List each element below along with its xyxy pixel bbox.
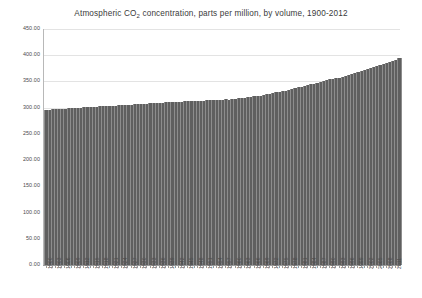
x-axis-tick (80, 266, 81, 268)
x-axis-tick (307, 266, 308, 268)
x-axis-tick (317, 266, 318, 268)
chart-title-rest: concentration, parts per million, by vol… (140, 9, 348, 18)
y-axis-tick-label: 100.00 (0, 210, 40, 215)
x-axis-tick (342, 266, 343, 268)
x-axis-tick (181, 266, 182, 268)
x-axis-tick (156, 266, 157, 268)
x-axis-tick (90, 266, 91, 268)
x-axis-tick (203, 266, 204, 268)
x-axis-tick (269, 266, 270, 268)
x-axis-tick (194, 266, 195, 268)
x-axis-tick (250, 266, 251, 268)
x-axis-tick (279, 266, 280, 268)
chart-title-subscript: 2 (137, 13, 141, 19)
x-axis-tick (304, 266, 305, 268)
x-axis-tick (294, 266, 295, 268)
x-axis-tick (332, 266, 333, 268)
y-axis-tick-label: 250.00 (0, 131, 40, 136)
x-axis-tick (389, 266, 390, 268)
x-axis-tick (143, 266, 144, 268)
chart-title: Atmospheric CO2 concentration, parts per… (0, 9, 422, 18)
x-axis-tick (351, 266, 352, 268)
x-axis-tick (209, 266, 210, 268)
x-axis-tick (323, 266, 324, 268)
x-axis-tick (99, 266, 100, 268)
x-axis-tick (87, 266, 88, 268)
x-axis-tick (190, 266, 191, 268)
y-axis-tick-label: 400.00 (0, 52, 40, 57)
x-axis-tick (49, 266, 50, 268)
x-axis-tick (219, 266, 220, 268)
x-axis-tick (124, 266, 125, 268)
y-axis-tick-label: 0.00 (0, 262, 40, 267)
x-axis-tick (200, 266, 201, 268)
x-axis-tick (392, 266, 393, 268)
x-axis-tick (326, 266, 327, 268)
x-axis-tick (118, 266, 119, 268)
x-axis-tick (52, 266, 53, 268)
x-axis-tick (71, 266, 72, 268)
x-axis-tick (109, 266, 110, 268)
y-axis-tick-label: 50.00 (0, 236, 40, 241)
x-axis-tick (298, 266, 299, 268)
x-axis-tick (105, 266, 106, 268)
x-axis-tick (228, 266, 229, 268)
x-axis-tick (165, 266, 166, 268)
x-axis-tick (184, 266, 185, 268)
x-axis-tick (238, 266, 239, 268)
y-axis-labels: 450.00400.00350.00300.00250.00200.00150.… (0, 0, 40, 298)
x-axis-tick (247, 266, 248, 268)
x-axis-tick (96, 266, 97, 268)
x-axis-tick (398, 266, 399, 268)
chart-container: Atmospheric CO2 concentration, parts per… (0, 0, 422, 298)
x-axis-tick (373, 266, 374, 268)
x-axis-tick (162, 266, 163, 268)
x-axis-tick (213, 266, 214, 268)
x-axis-tick (260, 266, 261, 268)
x-axis-tick (257, 266, 258, 268)
x-axis-tick (335, 266, 336, 268)
x-axis-tick (241, 266, 242, 268)
bar-series (44, 29, 400, 265)
x-axis-tick (276, 266, 277, 268)
x-axis-tick (77, 266, 78, 268)
plot-area (44, 29, 400, 265)
x-axis-tick (127, 266, 128, 268)
x-axis-tick (383, 266, 384, 268)
x-axis-tick (137, 266, 138, 268)
chart-title-main: Atmospheric CO (74, 9, 136, 18)
x-axis-tick (115, 266, 116, 268)
x-axis-tick (266, 266, 267, 268)
x-axis-tick (146, 266, 147, 268)
x-axis-tick (361, 266, 362, 268)
x-axis-tick (222, 266, 223, 268)
x-axis-tick (313, 266, 314, 268)
x-axis-tick (68, 266, 69, 268)
x-axis-tick (288, 266, 289, 268)
y-axis-tick-label: 450.00 (0, 26, 40, 31)
x-axis-tick (380, 266, 381, 268)
y-axis-tick-label: 150.00 (0, 183, 40, 188)
x-axis-tick (175, 266, 176, 268)
x-axis-labels: 1900190319061909191219151918192119241927… (44, 266, 400, 298)
x-axis-tick (354, 266, 355, 268)
x-axis-tick (231, 266, 232, 268)
x-axis-tick (153, 266, 154, 268)
y-axis-tick-label: 350.00 (0, 78, 40, 83)
x-axis-tick (172, 266, 173, 268)
x-axis-tick (364, 266, 365, 268)
x-axis-tick (134, 266, 135, 268)
x-axis-tick (370, 266, 371, 268)
y-axis-tick-label: 200.00 (0, 157, 40, 162)
y-axis-tick-label: 300.00 (0, 105, 40, 110)
x-axis-tick (61, 266, 62, 268)
x-axis-tick (58, 266, 59, 268)
x-axis-tick (285, 266, 286, 268)
bar (397, 58, 401, 265)
x-axis-tick (345, 266, 346, 268)
